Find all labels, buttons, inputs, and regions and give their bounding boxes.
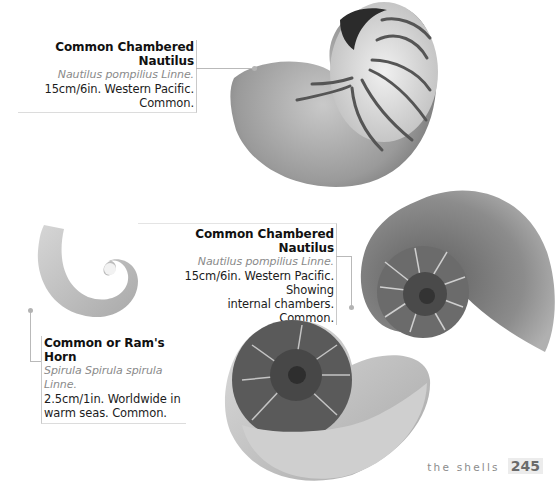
caption-line: 15cm/6in. Western Pacific. Showing: [138, 269, 334, 297]
leader-dot: [28, 308, 33, 313]
book-page: Common Chambered Nautilus Nautilus pompi…: [0, 0, 560, 487]
whole-nautilus-shell-icon: [222, 0, 442, 195]
leader-line: [30, 312, 31, 362]
caption-title: Common or Ram's Horn: [44, 336, 186, 364]
leader-line: [196, 68, 254, 69]
caption-line: Common.: [18, 96, 194, 110]
leader-dot: [252, 66, 257, 71]
leader-line: [336, 256, 351, 257]
caption-latin-name: Nautilus pompilius Linne.: [18, 68, 194, 82]
section-label: the shells: [427, 461, 499, 473]
caption-rams-horn: Common or Ram's Horn Spirula Spirula spi…: [41, 336, 186, 424]
sectioned-nautilus-shell-icon: [212, 305, 432, 487]
caption-line: 2.5cm/1in. Worldwide in: [44, 392, 186, 406]
caption-latin-name: Spirula Spirula spirula Linne.: [44, 364, 186, 392]
caption-title: Common Chambered Nautilus: [138, 227, 334, 255]
caption-whole-nautilus: Common Chambered Nautilus Nautilus pompi…: [18, 40, 197, 113]
leader-line: [351, 256, 352, 306]
caption-title: Common Chambered Nautilus: [18, 40, 194, 68]
page-footer: the shells 245: [427, 458, 543, 474]
caption-line: 15cm/6in. Western Pacific.: [18, 82, 194, 96]
caption-line: warm seas. Common.: [44, 406, 186, 420]
page-number: 245: [508, 458, 543, 474]
rams-horn-shell-icon: [30, 215, 152, 327]
caption-latin-name: Nautilus pompilius Linne.: [138, 255, 334, 269]
